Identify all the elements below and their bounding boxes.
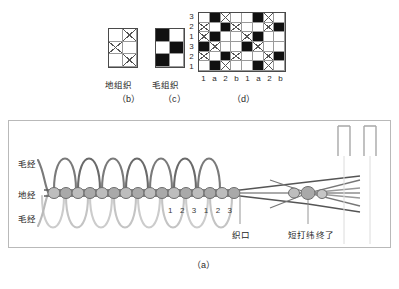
weave-grid-ground-label: 地组织 bbox=[105, 78, 133, 90]
combined-weave-cell-r5c5 bbox=[242, 52, 253, 62]
combined-weave-cell-r1c6 bbox=[253, 13, 264, 23]
combined-weave-cell-r3c4 bbox=[231, 32, 242, 42]
combined-weave-cell-r5c2 bbox=[210, 52, 221, 62]
grid-d-row-label-2: 2 bbox=[189, 23, 193, 31]
sublabel-d: （d） bbox=[232, 92, 255, 105]
label-pile-warp-top: 毛经 bbox=[18, 157, 36, 169]
combined-weave-cell-r3c6 bbox=[253, 32, 264, 42]
combined-weave-cell-r5c6 bbox=[253, 52, 264, 62]
reed-guide-lines bbox=[344, 156, 370, 244]
combined-weave-cell-r5c1 bbox=[199, 52, 210, 62]
fell-weft-picks bbox=[289, 187, 328, 200]
combined-weave-cell-r4c6 bbox=[253, 42, 264, 52]
ground-weave-cell-r1c2 bbox=[123, 29, 137, 42]
weave-grid-pile bbox=[155, 28, 185, 68]
weft-number-2: 2 bbox=[180, 206, 184, 215]
combined-weave-cell-r2c6 bbox=[253, 23, 264, 33]
pile-weave-cell-r2c1 bbox=[156, 42, 170, 55]
combined-weave-cell-r3c1 bbox=[199, 32, 210, 42]
label-ground-warp: 地经 bbox=[18, 188, 36, 200]
ground-weave-cell-r3c2 bbox=[123, 54, 137, 67]
weave-grid-combined bbox=[198, 12, 286, 72]
pile-weave-cell-r1c2 bbox=[170, 29, 184, 42]
combined-weave-cell-r3c2 bbox=[210, 32, 221, 42]
pile-weave-cell-r3c2 bbox=[170, 54, 184, 67]
combined-weave-cell-r2c1 bbox=[199, 23, 210, 33]
combined-weave-cell-r2c3 bbox=[221, 23, 232, 33]
label-fell: 织口 bbox=[232, 228, 250, 240]
weft-picks bbox=[48, 188, 240, 199]
combined-weave-cell-r1c5 bbox=[242, 13, 253, 23]
combined-weave-cell-r3c3 bbox=[221, 32, 232, 42]
weft-pick-numbers: 123123 bbox=[168, 206, 232, 215]
weft-number-3: 3 bbox=[192, 206, 196, 215]
combined-weave-cell-r1c4 bbox=[231, 13, 242, 23]
combined-weave-cell-r2c7 bbox=[264, 23, 275, 33]
combined-weave-cell-r5c7 bbox=[264, 52, 275, 62]
combined-weave-cell-r6c1 bbox=[199, 61, 210, 71]
combined-weave-cell-r5c4 bbox=[231, 52, 242, 62]
pile-weave-cell-r3c1 bbox=[156, 54, 170, 67]
grid-d-col-label-4: b bbox=[231, 74, 242, 83]
reed-icon bbox=[338, 126, 376, 156]
combined-weave-cell-r6c3 bbox=[221, 61, 232, 71]
combined-weave-cell-r4c8 bbox=[274, 42, 285, 52]
weave-grid-ground bbox=[108, 28, 138, 68]
shed-warp-fan bbox=[240, 176, 360, 212]
combined-weave-cell-r3c7 bbox=[264, 32, 275, 42]
combined-weave-cell-r4c1 bbox=[199, 42, 210, 52]
ground-weave-cell-r1c1 bbox=[109, 29, 123, 42]
grid-d-column-labels: 1a2b1a2b bbox=[198, 74, 286, 83]
combined-weave-cell-r6c8 bbox=[274, 61, 285, 71]
sublabel-b: （b） bbox=[117, 92, 140, 105]
pile-weave-cell-r2c2 bbox=[170, 42, 184, 55]
combined-weave-cell-r1c1 bbox=[199, 13, 210, 23]
grid-d-col-label-6: a bbox=[253, 74, 264, 83]
weft-number-6: 3 bbox=[228, 206, 232, 215]
combined-weave-cell-r5c8 bbox=[274, 52, 285, 62]
combined-weave-cell-r4c3 bbox=[221, 42, 232, 52]
weft-number-1: 1 bbox=[168, 206, 172, 215]
figure-root: 地组织 （b） 毛组织 （c） 321321 1a2b1a2b （d） bbox=[0, 0, 399, 289]
weft-number-5: 2 bbox=[216, 206, 220, 215]
combined-weave-cell-r2c2 bbox=[210, 23, 221, 33]
weft-number-4: 1 bbox=[204, 206, 208, 215]
grid-d-col-label-3: 2 bbox=[220, 74, 231, 83]
combined-weave-cell-r4c4 bbox=[231, 42, 242, 52]
grid-d-col-label-8: b bbox=[275, 74, 286, 83]
grid-d-row-label-6: 1 bbox=[189, 63, 193, 71]
grid-d-row-labels: 321321 bbox=[186, 12, 197, 72]
grid-d-col-label-7: 2 bbox=[264, 74, 275, 83]
combined-weave-cell-r3c5 bbox=[242, 32, 253, 42]
combined-weave-cell-r6c5 bbox=[242, 61, 253, 71]
combined-weave-cell-r5c3 bbox=[221, 52, 232, 62]
combined-weave-cell-r4c5 bbox=[242, 42, 253, 52]
grid-d-row-label-4: 3 bbox=[189, 43, 193, 51]
grid-d-row-label-1: 3 bbox=[189, 13, 193, 21]
combined-weave-cell-r6c6 bbox=[253, 61, 264, 71]
ground-weave-cell-r2c1 bbox=[109, 42, 123, 55]
combined-weave-cell-r6c4 bbox=[231, 61, 242, 71]
label-pile-warp-bottom: 毛经 bbox=[18, 212, 36, 224]
sublabel-a: （a） bbox=[192, 258, 215, 271]
combined-weave-cell-r2c5 bbox=[242, 23, 253, 33]
grid-d-col-label-5: 1 bbox=[242, 74, 253, 83]
ground-weave-cell-r3c1 bbox=[109, 54, 123, 67]
combined-weave-cell-r3c8 bbox=[274, 32, 285, 42]
grid-d-row-label-5: 2 bbox=[189, 53, 193, 61]
grid-d-col-label-2: a bbox=[209, 74, 220, 83]
combined-weave-cell-r4c7 bbox=[264, 42, 275, 52]
combined-weave-cell-r6c7 bbox=[264, 61, 275, 71]
combined-weave-cell-r6c2 bbox=[210, 61, 221, 71]
combined-weave-cell-r2c8 bbox=[274, 23, 285, 33]
pile-weave-cell-r1c1 bbox=[156, 29, 170, 42]
weave-grid-pile-label: 毛组织 bbox=[152, 78, 180, 90]
grid-d-col-label-1: 1 bbox=[198, 74, 209, 83]
combined-weave-cell-r1c2 bbox=[210, 13, 221, 23]
combined-weave-cell-r4c2 bbox=[210, 42, 221, 52]
combined-weave-cell-r1c3 bbox=[221, 13, 232, 23]
ground-weave-cell-r2c2 bbox=[123, 42, 137, 55]
combined-weave-cell-r1c8 bbox=[274, 13, 285, 23]
sublabel-c: （c） bbox=[163, 92, 186, 105]
grid-d-row-label-3: 1 bbox=[189, 33, 193, 41]
